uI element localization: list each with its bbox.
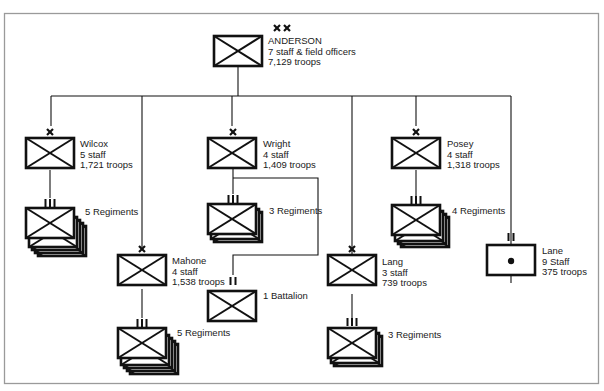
unit-name: ANDERSON bbox=[268, 36, 356, 47]
unit-troops: 1,538 troops bbox=[172, 277, 225, 288]
lang-subunit-label: 3 Regiments bbox=[388, 330, 441, 341]
unit-name: Wilcox bbox=[80, 139, 133, 150]
unit-troops: 739 troops bbox=[382, 278, 427, 289]
brigade-posey bbox=[392, 129, 449, 247]
regiment-iii-icon bbox=[137, 319, 148, 327]
unit-troops: 1,318 troops bbox=[447, 160, 500, 171]
diagram-frame bbox=[5, 14, 599, 384]
division-xx-icon bbox=[274, 25, 290, 31]
unit-name: Lang bbox=[382, 257, 427, 268]
wilcox-subunit-label: 5 Regiments bbox=[85, 207, 138, 218]
wright-label: Wright 4 staff 1,409 troops bbox=[263, 139, 316, 171]
regiment-stack-3 bbox=[328, 328, 382, 366]
brigade-mahone bbox=[118, 246, 178, 374]
brigade-lang bbox=[328, 246, 382, 366]
battalion-symbol bbox=[208, 291, 256, 321]
division-label: ANDERSON 7 staff & field officers 7,129 … bbox=[268, 36, 356, 68]
wright-regiments-label: 3 Regiments bbox=[269, 206, 322, 217]
lane-label: Lane 9 Staff 375 troops bbox=[542, 246, 587, 278]
regiment-stack-5 bbox=[26, 208, 86, 256]
unit-name: Wright bbox=[263, 139, 316, 150]
regiment-iii-icon bbox=[347, 318, 358, 326]
unit-name: Mahone bbox=[172, 256, 225, 267]
lang-label: Lang 3 staff 739 troops bbox=[382, 257, 427, 289]
unit-troops: 7,129 troops bbox=[268, 57, 356, 68]
regiment-iii-icon bbox=[228, 195, 239, 203]
unit-name: Posey bbox=[447, 139, 500, 150]
unit-troops: 1,721 troops bbox=[80, 160, 133, 171]
wright-battalion-label: 1 Battalion bbox=[263, 291, 308, 302]
battalion-ii-icon bbox=[230, 277, 237, 285]
regiment-stack-4 bbox=[392, 205, 449, 247]
wilcox-label: Wilcox 5 staff 1,721 troops bbox=[80, 139, 133, 171]
posey-subunit-label: 4 Regiments bbox=[452, 206, 505, 217]
brigade-x-icon bbox=[230, 129, 236, 135]
posey-label: Posey 4 staff 1,318 troops bbox=[447, 139, 500, 171]
infantry-brigade-symbol bbox=[26, 138, 74, 168]
brigade-x-icon bbox=[413, 129, 419, 135]
mahone-subunit-label: 5 Regiments bbox=[177, 328, 230, 339]
regiment-iii-icon bbox=[45, 199, 56, 207]
infantry-brigade-symbol bbox=[208, 138, 256, 168]
brigade-wright bbox=[208, 129, 262, 321]
regiment-stack-3 bbox=[208, 204, 262, 242]
artillery-symbol bbox=[487, 245, 535, 275]
regiment-iii-icon bbox=[411, 196, 422, 204]
brigade-x-icon bbox=[47, 129, 53, 135]
regiment-stack-5 bbox=[118, 328, 178, 374]
unit-troops: 375 troops bbox=[542, 267, 587, 278]
infantry-brigade-symbol bbox=[392, 138, 440, 168]
unit-name: Lane bbox=[542, 246, 587, 257]
infantry-division-symbol bbox=[214, 36, 262, 66]
brigade-wilcox bbox=[26, 129, 86, 256]
unit-troops: 1,409 troops bbox=[263, 160, 316, 171]
infantry-brigade-symbol bbox=[328, 255, 376, 285]
infantry-brigade-symbol bbox=[118, 255, 166, 285]
mahone-label: Mahone 4 staff 1,538 troops bbox=[172, 256, 225, 288]
